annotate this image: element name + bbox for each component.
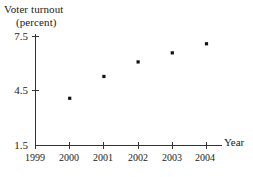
data-point-2001	[102, 75, 105, 78]
data-point-2000	[68, 97, 71, 100]
data-point-2003	[171, 51, 174, 54]
data-point-2004	[205, 42, 208, 45]
voter-turnout-scatter-chart: Voter turnout (percent) 7.5 4.5 1.5 1999…	[0, 0, 253, 177]
data-points-group	[68, 42, 208, 100]
data-point-2002	[137, 60, 140, 63]
plot-area	[0, 0, 253, 177]
